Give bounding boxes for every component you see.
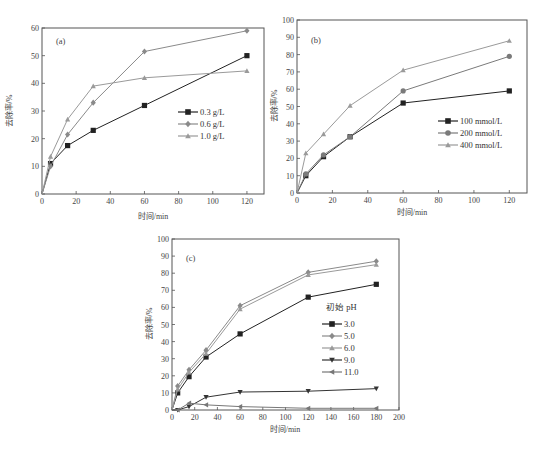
x-tick-label: 0	[40, 197, 44, 206]
x-tick-label: 100	[468, 196, 480, 205]
y-tick-label: 0	[290, 189, 294, 198]
y-tick-label: 40	[286, 120, 294, 129]
marker-triangle-left	[203, 402, 208, 407]
y-tick-label: 20	[31, 135, 39, 144]
plot-frame	[42, 28, 264, 194]
y-axis-label: 去除率/%	[4, 94, 14, 127]
x-tick-label: 0	[295, 196, 299, 205]
y-tick-label: 30	[31, 107, 39, 116]
marker-circle	[507, 54, 512, 59]
x-tick-label: 120	[302, 413, 314, 422]
y-tick-label: 20	[286, 154, 294, 163]
chart-a: 0102030405060020406080100120时间/min去除率/%(…	[4, 24, 264, 221]
x-tick-label: 100	[280, 413, 292, 422]
marker-circle	[347, 134, 352, 139]
legend-title: 初始 pH	[326, 302, 357, 312]
y-tick-label: 100	[157, 235, 169, 244]
x-tick-label: 60	[140, 197, 148, 206]
y-tick-label: 40	[161, 338, 169, 347]
legend-label: 0.6 g/L	[200, 119, 225, 129]
legend-label: 5.0	[344, 331, 355, 341]
y-tick-label: 30	[161, 355, 169, 364]
y-tick-label: 0	[35, 190, 39, 199]
y-tick-label: 50	[31, 52, 39, 61]
y-tick-label: 90	[161, 252, 169, 261]
legend-label: 200 mmol/L	[460, 128, 502, 138]
marker-triangle-up	[347, 103, 352, 108]
panel-label: (c)	[186, 253, 196, 263]
y-tick-label: 60	[286, 85, 294, 94]
marker-square	[142, 103, 147, 108]
x-tick-label: 80	[259, 413, 267, 422]
x-tick-label: 140	[325, 413, 337, 422]
x-tick-label: 40	[213, 413, 221, 422]
y-tick-label: 50	[161, 321, 169, 330]
x-tick-label: 120	[503, 196, 515, 205]
y-tick-label: 10	[31, 162, 39, 171]
legend-label: 6.0	[344, 343, 355, 353]
legend-label: 0.3 g/L	[200, 107, 225, 117]
marker-triangle-up	[507, 38, 512, 43]
x-tick-label: 160	[348, 413, 360, 422]
y-tick-label: 30	[286, 137, 294, 146]
data-series	[172, 401, 378, 413]
x-tick-label: 40	[106, 197, 114, 206]
marker-triangle-left	[329, 369, 334, 375]
x-tick-label: 120	[241, 197, 253, 206]
marker-circle	[303, 171, 308, 176]
marker-square	[244, 53, 249, 58]
marker-square	[91, 128, 96, 133]
legend-label: 9.0	[344, 355, 355, 365]
y-tick-label: 80	[286, 51, 294, 60]
legend-label: 400 mmol/L	[460, 140, 502, 150]
legend: 初始 pH3.05.06.09.011.0	[322, 302, 359, 377]
legend-label: 3.0	[344, 319, 355, 329]
y-tick-label: 70	[286, 68, 294, 77]
y-tick-label: 10	[161, 389, 169, 398]
x-tick-label: 60	[399, 196, 407, 205]
x-tick-label: 80	[435, 196, 443, 205]
x-axis-label: 时间/min	[397, 207, 428, 217]
x-tick-label: 0	[170, 413, 174, 422]
y-axis-label: 去除率/%	[269, 89, 279, 122]
y-tick-label: 0	[165, 406, 169, 415]
y-tick-label: 60	[31, 24, 39, 33]
marker-circle	[321, 152, 326, 157]
marker-square	[374, 282, 379, 287]
marker-square	[445, 118, 451, 124]
marker-circle	[401, 88, 406, 93]
x-tick-label: 20	[191, 413, 199, 422]
y-axis-label: 去除率/%	[144, 307, 154, 340]
x-tick-label: 200	[393, 413, 405, 422]
series-line	[172, 389, 376, 410]
marker-square	[507, 88, 512, 93]
y-tick-label: 100	[282, 16, 294, 25]
marker-circle	[445, 130, 451, 136]
marker-square	[185, 109, 191, 115]
x-axis-label: 时间/min	[138, 211, 169, 221]
y-tick-label: 60	[161, 303, 169, 312]
plot-frame	[172, 239, 399, 410]
x-tick-label: 20	[72, 197, 80, 206]
x-tick-label: 100	[207, 197, 219, 206]
marker-square	[65, 143, 70, 148]
plot-frame	[297, 20, 527, 193]
legend: 0.3 g/L0.6 g/L1.0 g/L	[178, 107, 225, 141]
panel-label: (b)	[311, 35, 321, 45]
x-axis-label: 时间/min	[270, 424, 301, 434]
legend-label: 1.0 g/L	[200, 131, 225, 141]
x-tick-label: 180	[370, 413, 382, 422]
marker-square	[306, 295, 311, 300]
x-tick-label: 60	[236, 413, 244, 422]
panel-label: (a)	[56, 36, 66, 46]
legend-label: 100 mmol/L	[460, 116, 502, 126]
legend-label: 11.0	[344, 367, 359, 377]
figure-canvas: 0102030405060020406080100120时间/min去除率/%(…	[0, 0, 544, 449]
chart-b: 0102030405060708090100020406080100120时间/…	[269, 16, 527, 217]
marker-diamond	[244, 28, 249, 34]
marker-square	[401, 100, 406, 105]
y-tick-label: 10	[286, 172, 294, 181]
y-tick-label: 40	[31, 79, 39, 88]
x-tick-label: 20	[328, 196, 336, 205]
marker-triangle-up	[48, 154, 53, 159]
